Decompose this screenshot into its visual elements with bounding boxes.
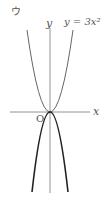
y-axis-label: y	[46, 18, 52, 29]
figure-label: ウ	[11, 7, 21, 17]
graph	[0, 0, 108, 205]
x-axis-label: x	[93, 106, 99, 117]
curve-label: y = 3x²	[64, 17, 100, 27]
origin-label: O	[36, 114, 44, 124]
